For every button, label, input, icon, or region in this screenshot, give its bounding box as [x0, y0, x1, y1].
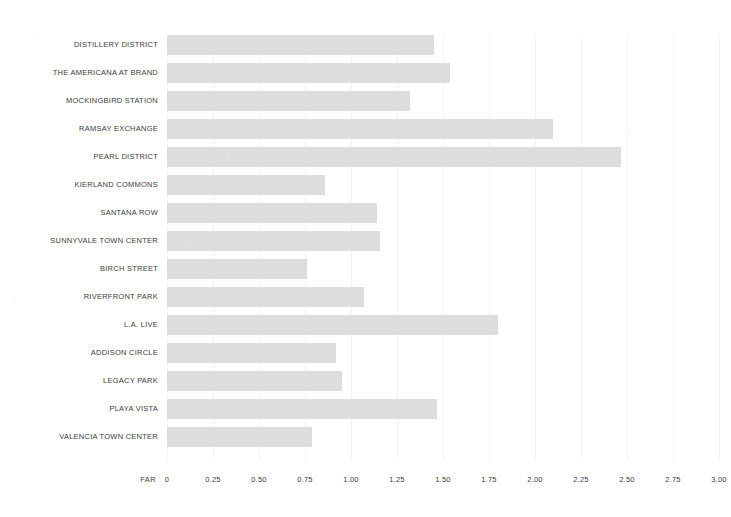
gridline	[581, 35, 582, 460]
category-label: BIRCH STREET	[2, 259, 158, 279]
category-label: SANTANA ROW	[2, 203, 158, 223]
x-tick-label: 1.75	[481, 474, 496, 486]
scan-speck	[14, 299, 16, 300]
bar[interactable]	[167, 427, 312, 447]
bar-row[interactable]	[167, 63, 450, 83]
x-tick-label: 2.25	[573, 474, 588, 486]
category-label: RAMSAY EXCHANGE	[2, 119, 158, 139]
bar[interactable]	[167, 371, 342, 391]
bar[interactable]	[167, 35, 434, 55]
category-label: L.A. LIVE	[2, 315, 158, 335]
x-axis-title: FAR	[140, 474, 156, 486]
bar[interactable]	[167, 91, 410, 111]
bar[interactable]	[167, 343, 336, 363]
x-tick-label: 2.00	[527, 474, 542, 486]
category-label: LEGACY PARK	[2, 371, 158, 391]
category-label: RIVERFRONT PARK	[2, 287, 158, 307]
bar-row[interactable]	[167, 371, 342, 391]
gridline	[535, 35, 536, 460]
bar[interactable]	[167, 203, 377, 223]
category-label: THE AMERICANA AT BRAND	[2, 63, 158, 83]
category-label: DISTILLERY DISTRICT	[2, 35, 158, 55]
x-tick-label: 0.25	[205, 474, 220, 486]
x-tick-label: 3.00	[711, 474, 726, 486]
scan-speck	[227, 155, 229, 156]
bar-row[interactable]	[167, 147, 621, 167]
x-tick-label: 0	[165, 474, 169, 486]
bar-row[interactable]	[167, 427, 312, 447]
x-tick-label: 2.50	[619, 474, 634, 486]
bar-row[interactable]	[167, 175, 325, 195]
x-tick-label: 1.00	[343, 474, 358, 486]
bar[interactable]	[167, 147, 621, 167]
category-axis: DISTILLERY DISTRICTTHE AMERICANA AT BRAN…	[0, 35, 158, 460]
bar[interactable]	[167, 63, 450, 83]
bar[interactable]	[167, 259, 307, 279]
x-tick-label: 0.75	[297, 474, 312, 486]
far-bar-chart: DISTILLERY DISTRICTTHE AMERICANA AT BRAN…	[0, 0, 731, 517]
gridline	[443, 35, 444, 460]
x-tick-label: 1.25	[389, 474, 404, 486]
bar-row[interactable]	[167, 35, 434, 55]
category-label: MOCKINGBIRD STATION	[2, 91, 158, 111]
x-tick-label: 0.50	[251, 474, 266, 486]
bar[interactable]	[167, 399, 437, 419]
category-label: VALENCIA TOWN CENTER	[2, 427, 158, 447]
bar[interactable]	[167, 287, 364, 307]
bar[interactable]	[167, 231, 380, 251]
bar[interactable]	[167, 175, 325, 195]
bar-row[interactable]	[167, 259, 307, 279]
bar-row[interactable]	[167, 203, 377, 223]
category-label: KIERLAND COMMONS	[2, 175, 158, 195]
scan-speck	[189, 241, 191, 242]
bar[interactable]	[167, 315, 498, 335]
category-label: PLAYA VISTA	[2, 399, 158, 419]
plot-area	[167, 35, 719, 460]
x-tick-label: 1.50	[435, 474, 450, 486]
bar-row[interactable]	[167, 399, 437, 419]
bar-row[interactable]	[167, 231, 380, 251]
category-label: ADDISON CIRCLE	[2, 343, 158, 363]
scan-speck	[36, 33, 38, 34]
bar-row[interactable]	[167, 119, 553, 139]
x-tick-label: 2.75	[665, 474, 680, 486]
bar-row[interactable]	[167, 315, 498, 335]
bar-row[interactable]	[167, 343, 336, 363]
scan-speck	[629, 131, 631, 132]
x-axis: FAR 00.250.500.751.001.251.501.752.002.2…	[0, 474, 731, 490]
gridline	[719, 35, 720, 460]
category-label: PEARL DISTRICT	[2, 147, 158, 167]
gridline	[489, 35, 490, 460]
gridline	[673, 35, 674, 460]
bar-row[interactable]	[167, 91, 410, 111]
bar-row[interactable]	[167, 287, 364, 307]
bar[interactable]	[167, 119, 553, 139]
category-label: SUNNYVALE TOWN CENTER	[2, 231, 158, 251]
gridline	[627, 35, 628, 460]
